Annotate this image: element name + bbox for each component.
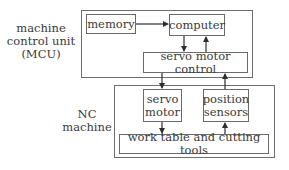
connector-arrows: [0, 0, 289, 170]
